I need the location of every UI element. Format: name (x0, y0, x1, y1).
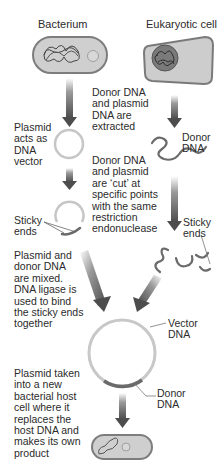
arrow-recombinant-to-host-icon (115, 393, 130, 428)
arrow-left-to-recombinant-icon (80, 250, 111, 312)
donor-dna-segment-label: Donor DNA (157, 388, 186, 411)
arrow-eukaryote-to-donor-icon (167, 95, 182, 128)
step-host-label: Plasmid taken into a new bacterial host … (14, 368, 81, 459)
recombinant-plasmid-icon (89, 320, 166, 396)
plasmid-vector-icon (55, 130, 83, 158)
plasmid-vector-label: Plasmid acts as DNA vector (14, 122, 51, 168)
bacterium-cell-icon (33, 37, 107, 73)
donor-dna-label: Donor DNA (182, 132, 211, 155)
sticky-ends-right-label: Sticky ends (183, 217, 211, 240)
cut-plasmid-icon (44, 202, 84, 235)
eukaryotic-cell-title: Eukaryotic cell (146, 19, 217, 30)
arrow-plasmid-to-cut-icon (62, 168, 77, 190)
cut-donor-fragments-icon (155, 235, 210, 272)
arrow-bacterium-to-plasmid-icon (62, 78, 77, 127)
host-bacterium-icon (92, 435, 152, 459)
eukaryotic-cell-icon (144, 37, 213, 84)
step-extract-label: Donor DNA and plasmid DNA are extracted (92, 87, 149, 133)
vector-dna-label: Vector DNA (168, 318, 198, 341)
step-mix-ligase-label: Plasmid and donor DNA are mixed. DNA lig… (14, 250, 83, 330)
arrow-donor-to-cut-icon (167, 176, 182, 231)
bacterium-title: Bacterium (38, 19, 88, 30)
step-cut-label: Donor DNA and plasmid are ‘cut’ at speci… (92, 155, 158, 235)
sticky-ends-left-label: Sticky ends (14, 215, 42, 238)
arrow-right-to-recombinant-icon (133, 275, 162, 312)
